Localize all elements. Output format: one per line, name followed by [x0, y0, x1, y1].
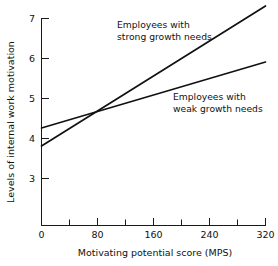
y-tick-label-6: 6 [29, 53, 35, 64]
line-chart-plot: 7 6 5 4 3 0 80 160 240 320 Motivating po… [0, 0, 278, 266]
x-tick-label-240: 240 [200, 229, 218, 240]
series-label-strong-growth-line2: strong growth needs [117, 31, 212, 42]
x-tick-label-80: 80 [91, 229, 103, 240]
chart-container: 7 6 5 4 3 0 80 160 240 320 Motivating po… [0, 0, 278, 266]
x-tick-label-0: 0 [38, 229, 44, 240]
x-tick-label-320: 320 [256, 229, 274, 240]
x-tick-label-160: 160 [144, 229, 162, 240]
y-tick-label-7: 7 [29, 13, 35, 24]
series-label-weak-growth-line2: weak growth needs [173, 103, 263, 114]
series-label-strong-growth-line1: Employees with [117, 19, 190, 30]
y-tick-label-4: 4 [29, 133, 35, 144]
x-axis-title: Motivating potential score (MPS) [78, 247, 232, 258]
y-axis-title: Levels of internal work motivation [5, 41, 16, 203]
y-tick-label-3: 3 [29, 173, 35, 184]
y-tick-label-5: 5 [29, 93, 35, 104]
series-label-weak-growth-line1: Employees with [173, 91, 246, 102]
